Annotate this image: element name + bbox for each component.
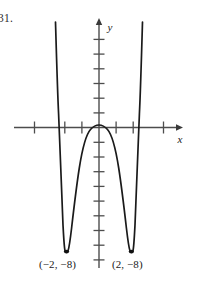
right-minimum-label: (2, −8) xyxy=(112,258,143,270)
left-minimum-label: (−2, −8) xyxy=(39,258,76,270)
graph-plot: x y xyxy=(0,0,197,282)
x-axis-arrowhead xyxy=(176,124,183,130)
y-axis-arrowhead xyxy=(96,18,102,25)
y-axis-label: y xyxy=(107,21,113,33)
figure-container: 31. x xyxy=(0,0,197,282)
y-axis-group: y xyxy=(94,18,113,268)
x-axis-label: x xyxy=(177,133,183,145)
left-minimum-point xyxy=(64,250,69,254)
right-minimum-point xyxy=(129,250,134,254)
